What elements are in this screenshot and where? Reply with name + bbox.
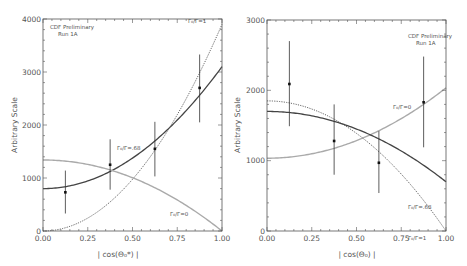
annotation-text: Run 1A <box>416 40 436 46</box>
x-tick-label: 1.00 <box>438 234 455 243</box>
y-tick-label: 2000 <box>246 86 265 95</box>
x-tick-label: 0.75 <box>393 234 410 243</box>
curve-label: Γ₀/Γ=0 <box>170 211 189 217</box>
data-point <box>154 148 157 151</box>
figure-canvas: Γ₀/Γ=.68Γ₀/Γ=1Γ₀/Γ=00.000.250.500.751.00… <box>0 0 467 266</box>
y-axis-label: Arbitrary Scale <box>233 97 242 153</box>
x-axis-label: | cos(Θ₀) | <box>338 250 375 259</box>
x-tick-label: 0.25 <box>79 234 96 243</box>
x-tick-label: 0.50 <box>348 234 365 243</box>
y-tick-label: 3000 <box>246 16 265 25</box>
curve-dotted <box>267 101 446 231</box>
y-tick-label: 0 <box>36 227 41 236</box>
x-tick-label: 0.75 <box>169 234 186 243</box>
y-axis-label: Arbitrary Scale <box>10 97 19 153</box>
data-point <box>333 140 336 143</box>
annotation-text: CDF Preliminary <box>408 33 453 40</box>
curve-solid <box>267 111 446 181</box>
curve-dotted <box>43 24 222 231</box>
y-tick-label: 3000 <box>22 68 41 77</box>
curve-label: Γ₀/Γ=.68 <box>117 145 141 151</box>
plot-frame <box>43 19 222 231</box>
y-tick-label: 0 <box>260 227 265 236</box>
data-point <box>288 83 291 86</box>
annotation-text: CDF Preliminary <box>50 24 95 31</box>
y-tick-label: 1000 <box>246 156 265 165</box>
y-tick-label: 1000 <box>22 174 41 183</box>
data-point <box>422 101 425 104</box>
left-chart-panel: Γ₀/Γ=.68Γ₀/Γ=1Γ₀/Γ=00.000.250.500.751.00… <box>10 15 231 260</box>
curve-label: Γ₀/Γ=1 <box>408 235 426 241</box>
data-point <box>109 163 112 166</box>
data-point <box>198 87 201 90</box>
data-point <box>378 161 381 164</box>
data-point <box>64 191 67 194</box>
x-tick-label: 0.25 <box>303 234 320 243</box>
curve-solid <box>43 67 222 189</box>
annotation-text: Run 1A <box>58 31 78 37</box>
curve-grey <box>267 88 446 158</box>
right-chart-panel: Γ₀/Γ=0Γ₀/Γ=.68Γ₀/Γ=10.000.250.500.751.00… <box>233 16 455 260</box>
y-tick-label: 2000 <box>22 121 41 130</box>
curve-grey <box>43 160 222 231</box>
plot-frame <box>267 20 446 231</box>
y-tick-label: 4000 <box>22 15 41 24</box>
x-tick-label: 0.50 <box>124 234 141 243</box>
x-axis-label: | cos(Θ₀*) | <box>98 250 139 259</box>
x-tick-label: 1.00 <box>214 234 231 243</box>
curve-label: Γ₀/Γ=0 <box>393 104 412 110</box>
